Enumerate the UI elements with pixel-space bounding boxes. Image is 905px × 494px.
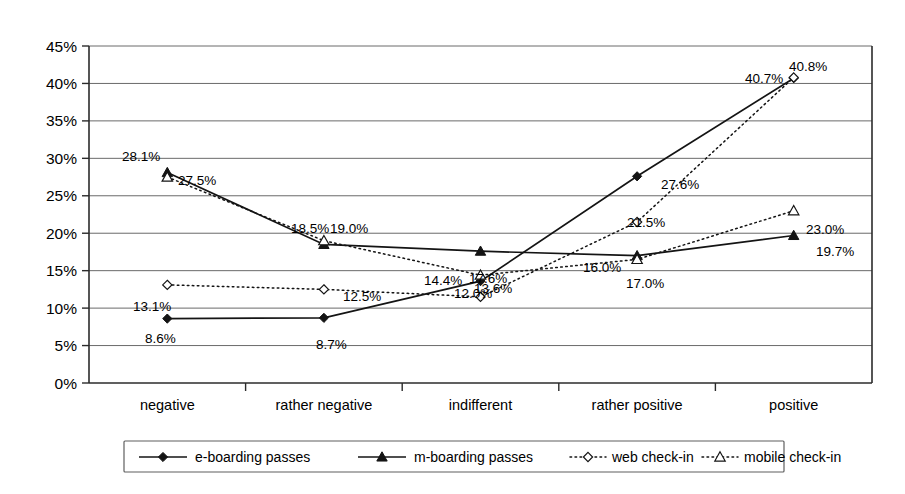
data-point-label: 12.0% xyxy=(454,286,492,301)
y-axis-tick-label: 30% xyxy=(46,150,77,167)
data-point-label: 16.0% xyxy=(583,260,621,275)
data-point-marker-open-diamond xyxy=(163,280,172,289)
data-point-marker-open-diamond xyxy=(319,285,328,294)
data-point-label: 8.6% xyxy=(145,331,176,346)
x-axis-category-label: positive xyxy=(769,397,818,413)
line-chart: 0%5%10%15%20%25%30%35%40%45% 28.1%18.5%1… xyxy=(0,0,905,494)
data-point-marker-filled-triangle xyxy=(789,230,799,239)
legend-label: mobile check-in xyxy=(744,449,841,465)
data-point-label: 40.7% xyxy=(745,71,783,86)
data-point-marker-filled-diamond xyxy=(163,314,172,323)
axis-ticks-group xyxy=(82,46,89,383)
data-point-label: 27.6% xyxy=(661,177,699,192)
data-point-label: 12.5% xyxy=(343,289,381,304)
x-axis-category-label: negative xyxy=(140,397,195,413)
y-axis-tick-label: 5% xyxy=(55,337,78,354)
y-axis-tick-label: 40% xyxy=(46,75,77,92)
x-axis-tickmarks xyxy=(246,383,716,391)
data-point-label: 40.8% xyxy=(789,59,827,74)
legend-label: web check-in xyxy=(611,449,694,465)
data-point-marker-open-triangle xyxy=(319,236,329,245)
data-point-label: 21.5% xyxy=(627,215,665,230)
y-axis-tick-label: 25% xyxy=(46,187,77,204)
data-point-label: 27.5% xyxy=(178,173,216,188)
y-axis-tick-label: 10% xyxy=(46,300,77,317)
x-axis-category-label: rather negative xyxy=(276,397,373,413)
data-point-label: 19.0% xyxy=(330,221,368,236)
legend-label: e-boarding passes xyxy=(195,449,310,465)
data-point-marker-open-triangle xyxy=(789,206,799,215)
x-axis-category-label: rather positive xyxy=(592,397,683,413)
chart-container: 0%5%10%15%20%25%30%35%40%45% 28.1%18.5%1… xyxy=(0,0,905,494)
legend-label: m-boarding passes xyxy=(414,449,533,465)
series-line-web-check-in xyxy=(167,77,793,296)
data-point-label: 8.7% xyxy=(316,337,347,352)
data-point-label: 13.1% xyxy=(133,299,171,314)
y-axis-tick-label: 20% xyxy=(46,225,77,242)
y-axis-tick-label: 45% xyxy=(46,38,77,55)
y-axis-tick-label: 15% xyxy=(46,262,77,279)
x-axis-category-label: indifferent xyxy=(449,397,512,413)
y-axis-tick-label: 35% xyxy=(46,112,77,129)
data-point-marker-filled-diamond xyxy=(319,313,328,322)
axes-group xyxy=(89,46,872,383)
y-axis-tick-labels: 0%5%10%15%20%25%30%35%40%45% xyxy=(46,38,77,392)
y-axis-tick-label: 0% xyxy=(55,375,78,392)
data-point-label: 18.5% xyxy=(291,221,329,236)
data-point-label: 28.1% xyxy=(122,149,160,164)
data-point-label: 19.7% xyxy=(816,244,854,259)
x-axis-category-labels: negativerather negativeindifferentrather… xyxy=(140,397,818,413)
series-line-m-boarding-passes xyxy=(167,173,793,256)
series-line-mobile-check-in xyxy=(167,177,793,275)
data-point-marker-filled-diamond xyxy=(633,172,642,181)
chart-legend: e-boarding passesm-boarding passesweb ch… xyxy=(124,441,841,472)
data-point-label: 17.0% xyxy=(626,276,664,291)
data-point-label: 23.0% xyxy=(806,222,844,237)
